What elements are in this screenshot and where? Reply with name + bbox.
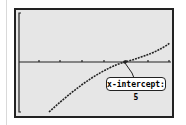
- x-intercept-label: x-intercept: 5: [106, 77, 166, 91]
- graph-plot: [0, 0, 186, 125]
- annotation-pointer: [125, 63, 134, 78]
- x-intercept-point: [123, 60, 127, 64]
